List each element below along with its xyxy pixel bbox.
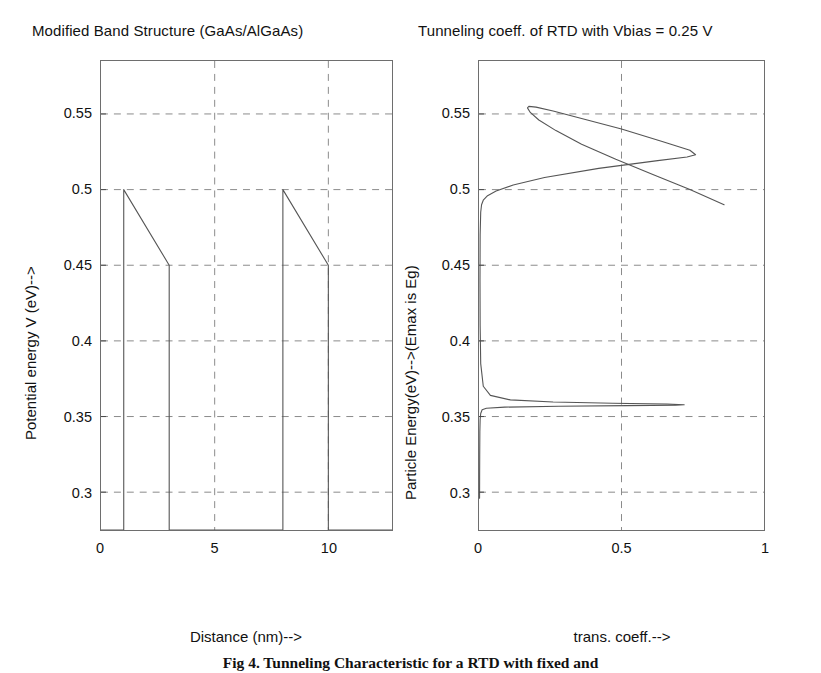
right-x-tick-label: 1 xyxy=(761,540,769,556)
figure-container: Modified Band Structure (GaAs/AlGaAs) Tu… xyxy=(0,0,821,673)
band-structure-plot xyxy=(101,61,392,530)
right-y-tick-label: 0.4 xyxy=(418,333,470,349)
left-y-tick-label: 0.35 xyxy=(40,409,92,425)
left-y-tick-label: 0.3 xyxy=(40,485,92,501)
right-y-tick-label: 0.5 xyxy=(418,181,470,197)
right-x-tick-label: 0.5 xyxy=(611,540,631,556)
left-plot-title: Modified Band Structure (GaAs/AlGaAs) xyxy=(32,22,303,39)
right-x-tick-label: 0 xyxy=(474,540,482,556)
left-y-axis-label: Potential energy V (eV)--> xyxy=(22,266,39,440)
transmission-coefficient-plot xyxy=(479,61,764,530)
right-y-tick-label: 0.35 xyxy=(418,409,470,425)
right-x-axis-label: trans. coeff.--> xyxy=(574,628,671,645)
left-y-tick-label: 0.5 xyxy=(40,181,92,197)
right-y-tick-label: 0.3 xyxy=(418,485,470,501)
left-x-tick-label: 5 xyxy=(210,540,218,556)
left-x-tick-label: 10 xyxy=(321,540,337,556)
right-y-axis-label: Particle Energy(eV)-->(Emax is Eg) xyxy=(402,265,419,500)
right-y-tick-label: 0.55 xyxy=(418,105,470,121)
right-y-tick-label: 0.45 xyxy=(418,257,470,273)
left-x-tick-label: 0 xyxy=(96,540,104,556)
left-x-axis-label: Distance (nm)--> xyxy=(190,628,302,645)
left-y-tick-label: 0.4 xyxy=(40,333,92,349)
left-y-tick-label: 0.55 xyxy=(40,105,92,121)
right-plot-title: Tunneling coeff. of RTD with Vbias = 0.2… xyxy=(418,22,713,39)
left-y-tick-label: 0.45 xyxy=(40,257,92,273)
figure-caption: Fig 4. Tunneling Characteristic for a RT… xyxy=(0,654,821,673)
right-plot-axes xyxy=(478,60,765,531)
left-plot-axes xyxy=(100,60,393,531)
